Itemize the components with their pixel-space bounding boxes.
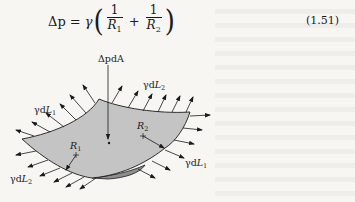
label-pressure-force: ΔpdA [98, 53, 124, 64]
book-page: Δp = γ ( 1 R1 + 1 R2 ) (1.51) [0, 0, 355, 202]
surface-tension-diagram: ΔpdA γdL2 γdL1 γdL1 γdL2 R1 R2 [0, 0, 355, 202]
surface-center-point [108, 142, 110, 144]
label-tension-top: γdL2 [143, 79, 165, 92]
label-tension-bottom: γdL2 [10, 173, 32, 186]
label-tension-right: γdL1 [185, 157, 207, 170]
label-tension-left: γdL1 [34, 104, 56, 117]
